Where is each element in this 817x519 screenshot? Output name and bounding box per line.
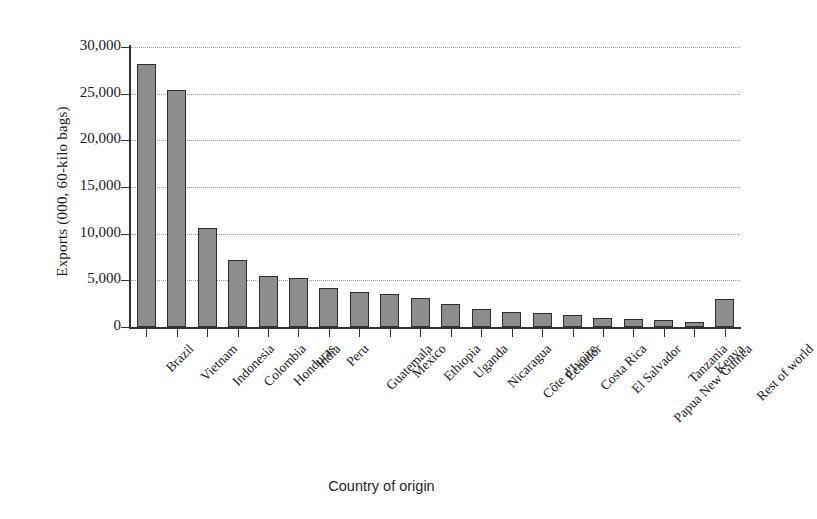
gridline bbox=[131, 94, 740, 95]
bar bbox=[137, 64, 156, 327]
bar bbox=[624, 319, 643, 327]
bar bbox=[563, 315, 582, 327]
x-tick-mark bbox=[329, 329, 330, 337]
x-tick-label: Brazil bbox=[163, 341, 198, 376]
x-tick-mark bbox=[268, 329, 269, 337]
x-axis-title: Country of origin bbox=[0, 478, 763, 494]
x-tick-mark bbox=[603, 329, 604, 337]
bar bbox=[715, 299, 734, 327]
gridline bbox=[131, 280, 740, 281]
bar bbox=[472, 309, 491, 327]
bar bbox=[411, 298, 430, 327]
bar bbox=[319, 288, 338, 327]
y-axis-ticks: 05,00010,00015,00020,00025,00030,000 bbox=[40, 0, 121, 519]
y-tick-label: 0 bbox=[51, 317, 121, 334]
x-tick-mark bbox=[725, 329, 726, 337]
bar bbox=[289, 278, 308, 327]
x-axis-line bbox=[129, 327, 741, 329]
plot-area bbox=[131, 47, 740, 327]
x-tick-mark bbox=[573, 329, 574, 337]
x-tick-mark bbox=[298, 329, 299, 337]
y-tick-label: 25,000 bbox=[51, 84, 121, 101]
y-tick-mark bbox=[121, 280, 130, 281]
x-tick-label: Rest of world bbox=[753, 341, 816, 404]
y-tick-mark bbox=[121, 327, 130, 328]
bar bbox=[533, 313, 552, 327]
x-tick-mark bbox=[390, 329, 391, 337]
x-tick-mark bbox=[420, 329, 421, 337]
y-tick-mark bbox=[121, 47, 130, 48]
bar bbox=[167, 90, 186, 327]
gridline bbox=[131, 47, 740, 48]
x-tick-label: Peru bbox=[343, 341, 372, 370]
y-tick-mark bbox=[121, 234, 130, 235]
bar bbox=[198, 228, 217, 327]
bar bbox=[380, 294, 399, 327]
x-tick-mark bbox=[177, 329, 178, 337]
y-tick-label: 30,000 bbox=[51, 37, 121, 54]
x-tick-mark bbox=[238, 329, 239, 337]
x-tick-mark bbox=[542, 329, 543, 337]
y-tick-label: 5,000 bbox=[51, 270, 121, 287]
x-tick-mark bbox=[451, 329, 452, 337]
x-tick-mark bbox=[512, 329, 513, 337]
bar bbox=[593, 318, 612, 327]
x-tick-mark bbox=[207, 329, 208, 337]
gridline bbox=[131, 187, 740, 188]
bar bbox=[228, 260, 247, 327]
bar bbox=[685, 322, 704, 327]
y-tick-label: 15,000 bbox=[51, 177, 121, 194]
y-tick-mark bbox=[121, 94, 130, 95]
x-tick-mark bbox=[146, 329, 147, 337]
gridline bbox=[131, 140, 740, 141]
bar bbox=[350, 292, 369, 327]
x-tick-mark bbox=[664, 329, 665, 337]
y-tick-label: 20,000 bbox=[51, 130, 121, 147]
bar bbox=[502, 312, 521, 327]
bar bbox=[654, 320, 673, 327]
y-tick-label: 10,000 bbox=[51, 224, 121, 241]
bar bbox=[259, 276, 278, 327]
x-tick-mark bbox=[633, 329, 634, 337]
bar bbox=[441, 304, 460, 327]
x-tick-mark bbox=[481, 329, 482, 337]
x-tick-mark bbox=[694, 329, 695, 337]
y-tick-mark bbox=[121, 187, 130, 188]
x-tick-mark bbox=[359, 329, 360, 337]
gridline bbox=[131, 234, 740, 235]
y-tick-mark bbox=[121, 140, 130, 141]
